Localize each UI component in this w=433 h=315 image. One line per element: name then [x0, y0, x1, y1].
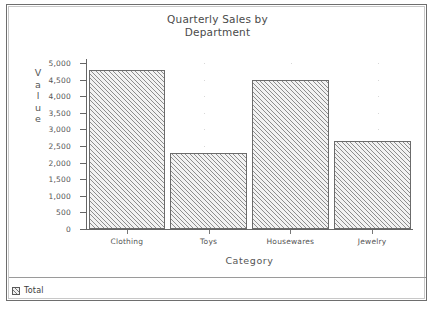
x-tick-label-clothing: Clothing: [110, 237, 143, 246]
y-tick-label-4500: 4,500: [49, 75, 71, 84]
x-axis-title: Category: [86, 255, 413, 266]
grid-speck: [378, 113, 379, 114]
y-tick-label-3000: 3,000: [49, 125, 71, 134]
y-tick-3500: 3,500: [80, 113, 87, 114]
grid-speck: [204, 96, 205, 97]
y-tick-5000: 5,000: [80, 63, 87, 64]
y-tick-1500: 1,500: [80, 179, 87, 180]
y-tick-2500: 2,500: [80, 146, 87, 147]
hatched-swatch-icon: [12, 287, 20, 295]
grid-speck: [378, 96, 379, 97]
y-tick-label-2500: 2,500: [49, 142, 71, 151]
y-tick-label-3500: 3,500: [49, 108, 71, 117]
x-tick-jewelry: [372, 230, 373, 234]
y-tick-label-500: 500: [56, 208, 71, 217]
y-tick-2000: 2,000: [80, 163, 87, 164]
bar-housewares[interactable]: [252, 80, 329, 229]
x-tick-label-housewares: Housewares: [267, 237, 315, 246]
y-axis-line: [86, 59, 87, 230]
y-axis-title-char-1: a: [31, 79, 45, 91]
y-tick-500: 500: [80, 212, 87, 213]
x-tick-label-jewelry: Jewelry: [358, 237, 387, 246]
grid-speck: [204, 80, 205, 81]
y-axis-title-char-4: e: [31, 113, 45, 125]
y-tick-1000: 1,000: [80, 196, 87, 197]
y-axis-title-char-2: l: [31, 90, 45, 102]
y-axis-title-char-0: V: [31, 67, 45, 79]
grid-speck: [204, 113, 205, 114]
x-tick-label-toys: Toys: [200, 237, 217, 246]
chart-window: Quarterly Sales by Department Value 5,00…: [6, 4, 427, 301]
y-tick-label-1500: 1,500: [49, 175, 71, 184]
y-tick-label-5000: 5,000: [49, 59, 71, 68]
y-axis-title-char-3: u: [31, 102, 45, 114]
y-tick-label-4000: 4,000: [49, 92, 71, 101]
chart-title: Quarterly Sales by Department: [7, 13, 428, 39]
legend-label-total: Total: [24, 286, 44, 295]
y-tick-label-1000: 1,000: [49, 191, 71, 200]
y-tick-4000: 4,000: [80, 96, 87, 97]
y-tick-label-0: 0: [66, 225, 71, 234]
legend-separator: [9, 277, 426, 278]
chart-title-line-2: Department: [7, 26, 428, 39]
y-tick-3000: 3,000: [80, 129, 87, 130]
y-tick-0: 0: [80, 229, 87, 230]
bar-toys[interactable]: [170, 153, 247, 229]
grid-speck: [291, 63, 292, 64]
grid-speck: [204, 129, 205, 130]
grid-speck: [378, 129, 379, 130]
x-axis-line: [86, 229, 413, 230]
bar-clothing[interactable]: [89, 70, 166, 229]
y-axis-title: Value: [31, 67, 45, 125]
y-tick-4500: 4,500: [80, 80, 87, 81]
bar-jewelry[interactable]: [334, 141, 411, 229]
plot-area: 5,0004,5004,0003,5003,0002,5002,0001,500…: [86, 63, 413, 230]
grid-speck: [204, 146, 205, 147]
x-tick-toys: [209, 230, 210, 234]
chart-title-line-1: Quarterly Sales by: [7, 13, 428, 26]
chart-legend[interactable]: Total: [12, 286, 44, 295]
x-tick-clothing: [127, 230, 128, 234]
x-tick-housewares: [290, 230, 291, 234]
grid-speck: [204, 63, 205, 64]
grid-speck: [378, 63, 379, 64]
grid-speck: [378, 80, 379, 81]
y-tick-label-2000: 2,000: [49, 158, 71, 167]
